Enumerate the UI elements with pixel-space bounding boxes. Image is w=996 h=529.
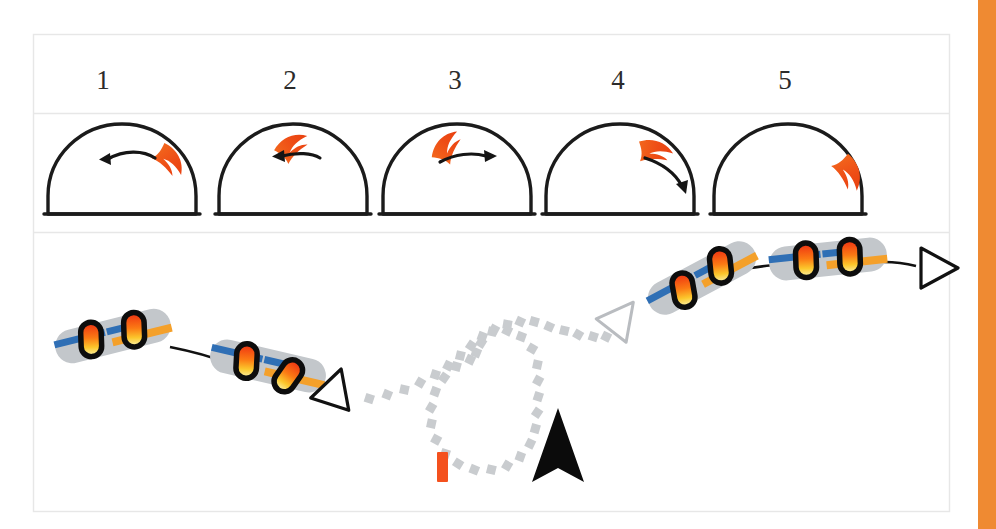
page-accent-bar bbox=[978, 0, 996, 529]
step-number-5: 5 bbox=[778, 65, 792, 95]
rider-1a bbox=[77, 319, 104, 360]
step-number-4: 4 bbox=[611, 65, 625, 95]
downwind-track-row bbox=[50, 228, 958, 482]
wind-window-cell-4 bbox=[542, 124, 698, 214]
rider-4b bbox=[836, 236, 863, 277]
wind-window-cell-3 bbox=[379, 124, 535, 214]
rider-4a bbox=[792, 240, 819, 281]
navigation-cursor-icon bbox=[532, 408, 584, 482]
buoy-mark bbox=[437, 452, 448, 482]
jibe-loop-path bbox=[364, 316, 613, 476]
board-link-end bbox=[884, 262, 916, 266]
board-group-3 bbox=[638, 228, 766, 328]
wind-window-cell-5 bbox=[710, 124, 868, 214]
wind-window-row bbox=[44, 124, 868, 214]
wind-window-cell-1 bbox=[44, 124, 200, 214]
figure-canvas: 1 2 3 4 5 bbox=[0, 0, 996, 529]
step-number-2: 2 bbox=[283, 65, 297, 95]
rider-1b bbox=[120, 309, 147, 350]
step-number-3: 3 bbox=[448, 65, 462, 95]
triangle-end bbox=[921, 248, 958, 288]
step-numbers-row: 1 2 3 4 5 bbox=[96, 65, 792, 95]
wind-window-cell-2 bbox=[215, 124, 371, 214]
board-group-1 bbox=[50, 298, 176, 371]
board-group-4 bbox=[767, 231, 889, 286]
step-number-1: 1 bbox=[96, 65, 110, 95]
rider-2a bbox=[233, 340, 261, 381]
